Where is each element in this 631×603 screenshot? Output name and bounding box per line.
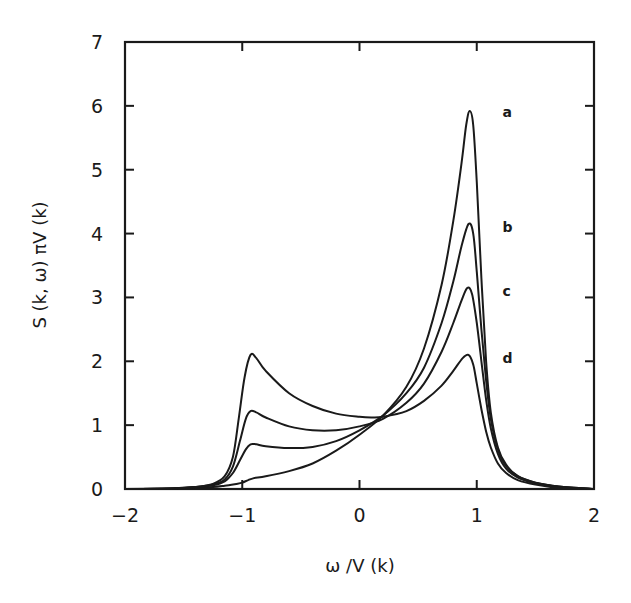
y-tick-label: 5 [91,159,103,181]
y-tick-label: 0 [91,478,103,500]
plot-frame [125,42,594,489]
y-tick-label: 4 [91,223,103,245]
curve-a [125,111,594,489]
x-tick-label: 2 [588,504,600,526]
curve-label-a: a [503,104,512,120]
y-tick-label: 6 [91,95,103,117]
y-axis-tick-labels: 01234567 [91,31,103,500]
curve-labels: abcd [503,104,513,366]
y-tick-label: 3 [91,286,103,308]
curve-c [125,288,594,489]
x-tick-label: −1 [228,504,256,526]
curve-b [125,223,594,489]
y-axis-ticks [125,106,594,425]
x-tick-label: −2 [111,504,139,526]
y-axis-label: S (k, ω) πV (k) [29,201,50,328]
spectral-function-chart: −2−1012 01234567 abcd ω /V (k) S (k, ω) … [0,0,631,603]
x-axis-tick-labels: −2−1012 [111,504,600,526]
curve-d [125,354,594,489]
curve-label-c: c [503,283,511,299]
y-tick-label: 2 [91,350,103,372]
x-tick-label: 0 [353,504,365,526]
y-tick-label: 1 [91,414,103,436]
x-axis-label: ω /V (k) [325,555,394,576]
curves [125,111,594,489]
x-tick-label: 1 [471,504,483,526]
curve-label-d: d [503,350,513,366]
y-tick-label: 7 [91,31,103,53]
curve-label-b: b [503,219,513,235]
